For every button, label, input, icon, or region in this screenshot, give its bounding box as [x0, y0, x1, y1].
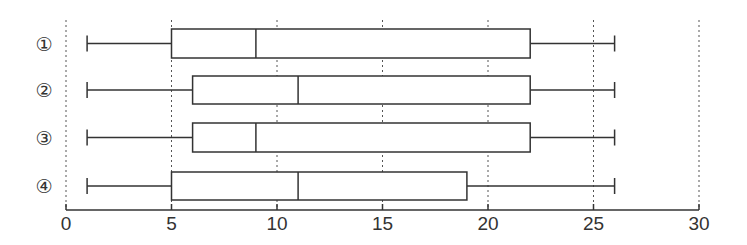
- box-plot-chart: 051015202530 ①②③④: [0, 0, 747, 245]
- tick-label: 5: [166, 213, 177, 234]
- box-1: [87, 29, 615, 58]
- iqr-box: [193, 76, 531, 104]
- row-label: ②: [35, 79, 52, 101]
- iqr-box: [193, 123, 531, 152]
- tick-label: 15: [372, 213, 393, 234]
- row-label: ③: [35, 127, 52, 149]
- tick-label: 25: [583, 213, 604, 234]
- row-label: ①: [35, 33, 52, 55]
- iqr-box: [172, 29, 531, 58]
- boxes: [87, 29, 615, 200]
- x-axis: 051015202530: [61, 204, 710, 234]
- box-4: [87, 172, 615, 200]
- tick-label: 10: [266, 213, 287, 234]
- tick-label: 0: [61, 213, 72, 234]
- tick-label: 30: [688, 213, 709, 234]
- tick-label: 20: [477, 213, 498, 234]
- box-2: [87, 76, 615, 104]
- row-labels: ①②③④: [35, 33, 52, 198]
- row-label: ④: [35, 175, 52, 197]
- iqr-box: [172, 172, 467, 200]
- box-3: [87, 123, 615, 152]
